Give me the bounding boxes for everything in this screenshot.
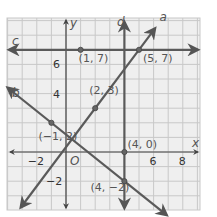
point-label: (2, 3) [89,84,119,97]
origin-label: O [70,154,79,168]
x-tick-label: −2 [28,155,44,168]
y-tick-label: 4 [53,88,60,101]
x-tick-label: 8 [179,155,186,168]
point-label: (4, −2) [90,181,129,194]
point-label: (4, 0) [127,138,157,151]
y-tick-label: 6 [53,58,60,71]
point-marker [93,106,98,111]
line-label-d: d [117,15,125,29]
point-marker [122,149,127,154]
x-axis-label: x [191,136,200,150]
point-label: (−1, 2) [38,130,77,143]
line-label-a: a [159,10,166,24]
point-label: (1, 7) [79,52,109,65]
point-label: (5, 7) [143,52,173,65]
x-tick-label: 6 [150,155,157,168]
line-label-b: b [12,86,20,100]
point-marker [49,120,54,125]
coordinate-graph: (1, 7)(5, 7)(2, 3)(−1, 2)(4, 0)(4, −2)ab… [0,0,217,217]
point-marker [136,47,141,52]
line-label-c: c [12,34,19,48]
y-axis-label: y [69,16,78,30]
y-tick-label: −2 [46,175,62,188]
